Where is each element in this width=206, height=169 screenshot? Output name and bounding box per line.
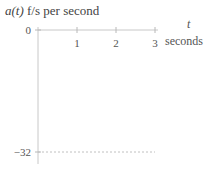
x-tick-label: 1 [74,37,80,49]
x-axis-variable-label: t [187,17,191,31]
x-tick-label: 2 [113,37,119,49]
chart-title-function: a(t) [5,3,24,18]
chart-title-units: f/s per second [24,3,100,18]
x-tick-label: 3 [152,37,158,49]
y-ticks: 0−32 [14,24,41,158]
chart-title: a(t) f/s per second [5,3,100,18]
y-tick-label: 0 [26,24,32,36]
y-tick-label: −32 [14,146,31,158]
acceleration-chart: a(t) f/s per second 123 0−32 t seconds [0,0,206,169]
x-axis-unit-label: seconds [165,34,203,48]
